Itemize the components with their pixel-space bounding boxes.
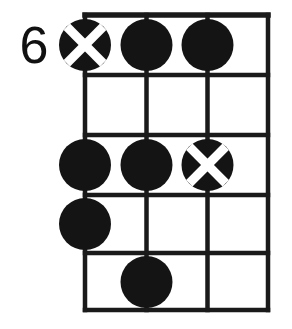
marker-fret4-string1[interactable] xyxy=(59,198,111,250)
marker-circle-filled-icon xyxy=(59,139,111,191)
marker-fret1-string2[interactable] xyxy=(121,19,173,71)
chord-diagram: 6 xyxy=(0,0,292,329)
marker-circle-filled-icon xyxy=(59,198,111,250)
marker-circle-filled-icon xyxy=(121,19,173,71)
string-lines-group xyxy=(85,15,268,310)
marker-fret1-string1[interactable] xyxy=(59,19,111,71)
marker-fret3-string1[interactable] xyxy=(59,139,111,191)
marker-fret5-string2[interactable] xyxy=(121,256,173,308)
marker-fret3-string2[interactable] xyxy=(121,139,173,191)
fretboard-grid xyxy=(0,0,292,329)
marker-circle-filled-icon xyxy=(182,19,234,71)
marker-circle-filled-icon xyxy=(121,256,173,308)
marker-fret1-string3[interactable] xyxy=(182,19,234,71)
marker-circle-filled-icon xyxy=(121,139,173,191)
fret-lines-group xyxy=(85,15,268,310)
marker-fret3-string3[interactable] xyxy=(182,139,234,191)
